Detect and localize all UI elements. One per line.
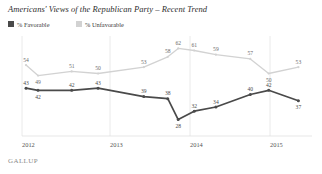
gallup-logo: GALLUP (8, 157, 38, 165)
data-point (214, 106, 217, 109)
data-label: 53 (296, 59, 302, 65)
data-point (267, 89, 270, 92)
series-line-unfavorable (26, 48, 298, 75)
data-label: 32 (191, 103, 197, 109)
data-point (71, 70, 73, 72)
data-point (25, 87, 28, 90)
plot-area: 544951505358626159575053 434242433938283… (0, 34, 322, 142)
page-title: Americans' Views of the Republican Party… (8, 4, 207, 14)
legend-swatch-unfavorable (76, 21, 82, 27)
data-label: 59 (213, 46, 219, 52)
data-point (143, 66, 145, 68)
data-point (193, 110, 196, 113)
data-label: 62 (175, 40, 181, 46)
data-label: 42 (266, 82, 272, 88)
data-point (177, 47, 179, 49)
data-point (297, 66, 299, 68)
data-label: 54 (23, 57, 29, 63)
data-label: 51 (69, 63, 75, 69)
data-label: 28 (175, 123, 181, 129)
x-axis: 2012201320142015 (0, 141, 322, 153)
data-point (97, 72, 99, 74)
legend-item-favorable: % Favorable (8, 19, 49, 29)
data-point (215, 54, 217, 56)
data-point (166, 97, 169, 100)
data-point (268, 72, 270, 74)
chart-canvas (0, 34, 322, 142)
legend-item-unfavorable: % Unfavorable (76, 19, 124, 29)
series-line-favorable (26, 88, 298, 119)
data-label: 49 (35, 79, 41, 85)
data-point (249, 58, 251, 60)
data-label: 61 (191, 42, 197, 48)
data-label: 53 (141, 59, 147, 65)
data-label: 40 (248, 86, 254, 92)
data-label: 58 (165, 48, 171, 54)
data-label: 37 (296, 104, 302, 110)
data-label: 57 (248, 50, 254, 56)
data-label: 39 (141, 88, 147, 94)
x-axis-label-2013: 2013 (110, 141, 123, 148)
gallup-trend-chart: Americans' Views of the Republican Party… (0, 0, 322, 174)
data-label: 42 (69, 82, 75, 88)
data-point (37, 75, 39, 77)
legend-label-favorable: % Favorable (17, 21, 49, 28)
data-label: 34 (213, 99, 219, 105)
data-point (177, 118, 180, 121)
data-label: 43 (95, 80, 101, 86)
data-label: 38 (165, 90, 171, 96)
data-label: 42 (35, 94, 41, 100)
legend-swatch-favorable (8, 21, 14, 27)
data-point (297, 99, 300, 102)
data-point (25, 64, 27, 66)
data-point (249, 93, 252, 96)
data-point (193, 49, 195, 51)
data-point (167, 56, 169, 58)
x-axis-label-2012: 2012 (22, 141, 35, 148)
data-point (97, 87, 100, 90)
data-label: 50 (95, 65, 101, 71)
x-axis-label-2015: 2015 (270, 141, 283, 148)
legend-label-unfavorable: % Unfavorable (85, 21, 124, 28)
x-axis-label-2014: 2014 (190, 141, 203, 148)
data-point (70, 89, 73, 92)
data-point (142, 95, 145, 98)
data-point (37, 89, 40, 92)
data-label: 43 (23, 80, 29, 86)
